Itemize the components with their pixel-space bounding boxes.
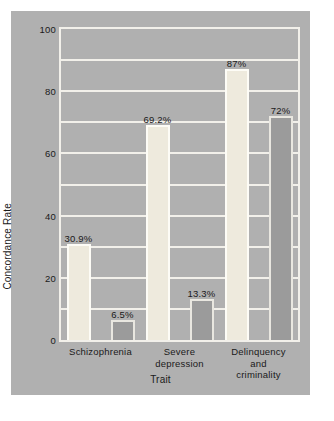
gridline bbox=[61, 152, 298, 154]
y-tick-label: 20 bbox=[45, 272, 56, 283]
bar-light-bars-0: 30.9% bbox=[67, 244, 91, 340]
bar-value-label: 30.9% bbox=[65, 233, 93, 244]
bar-dark-bars-1: 13.3% bbox=[190, 299, 214, 340]
bar-value-label: 69.2% bbox=[144, 114, 172, 125]
y-tick-label: 0 bbox=[51, 335, 56, 346]
x-axis-title: Trait bbox=[150, 374, 171, 385]
gridline bbox=[61, 308, 298, 310]
bar-light-bars-1: 69.2% bbox=[146, 125, 170, 340]
y-tick-label: 40 bbox=[45, 210, 56, 221]
gridline bbox=[61, 59, 298, 61]
bar-value-label: 72% bbox=[271, 105, 291, 116]
gridline bbox=[61, 121, 298, 123]
x-tick-label: Severe depression bbox=[155, 346, 203, 369]
bar-value-label: 87% bbox=[227, 58, 247, 69]
gridline bbox=[61, 184, 298, 186]
x-tick-label: Delinquency and criminality bbox=[231, 346, 285, 381]
bar-dark-bars-0: 6.5% bbox=[111, 320, 135, 340]
gridline bbox=[61, 246, 298, 248]
y-axis-title: Concordance Rate bbox=[2, 203, 13, 290]
chart-figure-panel: Concordance Rate 020406080100 30.9%6.5%6… bbox=[11, 11, 310, 395]
bar-dark-bars-2: 72% bbox=[269, 116, 293, 340]
y-tick-label: 60 bbox=[45, 148, 56, 159]
bar-value-label: 13.3% bbox=[188, 288, 216, 299]
y-tick-label: 100 bbox=[40, 24, 56, 35]
gridline bbox=[61, 215, 298, 217]
plot-frame: 020406080100 30.9%6.5%69.2%13.3%87%72% S… bbox=[59, 27, 300, 342]
bar-light-bars-2: 87% bbox=[225, 69, 249, 340]
x-tick-label: Schizophrenia bbox=[69, 346, 132, 358]
gridline bbox=[61, 90, 298, 92]
bar-value-label: 6.5% bbox=[111, 309, 133, 320]
gridline bbox=[61, 277, 298, 279]
y-tick-label: 80 bbox=[45, 86, 56, 97]
plot-area: 020406080100 30.9%6.5%69.2%13.3%87%72% S… bbox=[61, 29, 298, 340]
